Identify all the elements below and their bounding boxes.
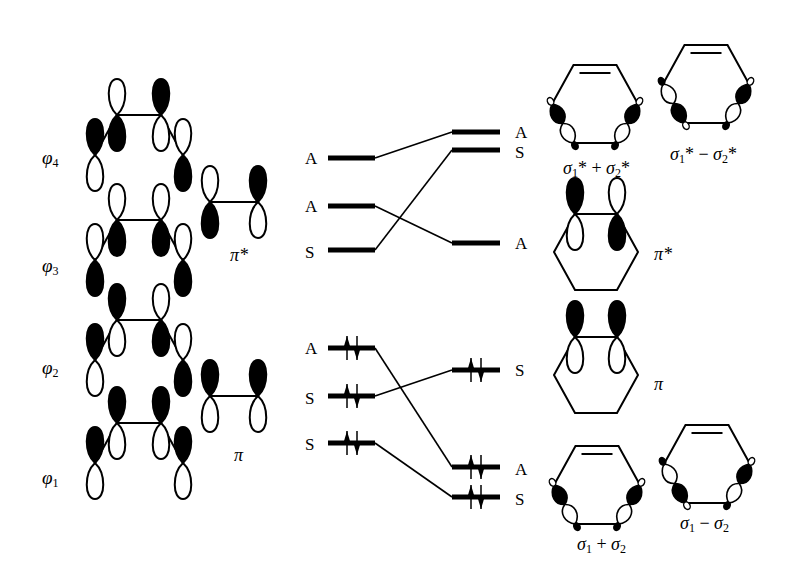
phi1-label: φ1 bbox=[42, 468, 59, 489]
right-energy-level bbox=[452, 485, 500, 509]
pi-star-label: π* bbox=[230, 246, 248, 264]
correlation-line bbox=[375, 132, 452, 158]
pi-ring bbox=[554, 301, 638, 413]
sigma-lobe-icon bbox=[543, 95, 583, 153]
left-energy-level bbox=[328, 204, 375, 209]
correlation-diagram bbox=[0, 0, 791, 578]
right-sym-label: S bbox=[515, 144, 524, 161]
sigma-star-minus-label: σ1* − σ2* bbox=[670, 145, 737, 165]
left-sym-label: S bbox=[305, 436, 314, 453]
sigma-lobe-icon bbox=[718, 75, 758, 133]
p-lobe-icon bbox=[175, 119, 192, 191]
pi-star-ring bbox=[554, 178, 638, 290]
correlation-line bbox=[375, 370, 452, 396]
correlation-line bbox=[375, 150, 452, 250]
left-energy-level bbox=[328, 384, 375, 408]
p-lobe-icon bbox=[87, 119, 104, 191]
left-sym-label: A bbox=[305, 150, 317, 167]
phi2-orbital bbox=[87, 284, 192, 396]
sigma-lobe-icon bbox=[719, 455, 759, 513]
sigma-plus-label: σ1 + σ2 bbox=[577, 535, 626, 555]
right-energy-level bbox=[452, 130, 500, 135]
sigma-lobe-icon bbox=[545, 476, 585, 534]
phi3-orbital bbox=[87, 184, 192, 296]
right-energy-level bbox=[452, 455, 500, 479]
ethylene-pi-orbital bbox=[202, 360, 267, 432]
right-energy-level bbox=[452, 358, 500, 382]
right-energy-level bbox=[452, 241, 500, 246]
correlation-line bbox=[375, 348, 452, 467]
sigma-star-plus-ring bbox=[543, 65, 648, 152]
correlation-line bbox=[375, 206, 452, 243]
sigma-star-plus-label: σ1* + σ2* bbox=[563, 159, 630, 179]
sigma-lobe-icon bbox=[607, 95, 647, 153]
p-lobe-icon bbox=[87, 224, 104, 296]
left-energy-level bbox=[328, 336, 375, 360]
energy-levels bbox=[328, 130, 500, 510]
left-sym-label: A bbox=[305, 340, 317, 357]
right-sym-label: S bbox=[515, 362, 524, 379]
ring-pi-label: π bbox=[654, 375, 663, 393]
p-lobe-icon bbox=[175, 224, 192, 296]
sigma-plus-ring bbox=[545, 446, 650, 533]
right-sym-label: A bbox=[515, 235, 527, 252]
pi-label: π bbox=[234, 446, 243, 464]
right-energy-level bbox=[452, 148, 500, 153]
p-lobe-icon bbox=[87, 427, 104, 499]
phi2-label: φ2 bbox=[42, 358, 59, 379]
phi3-label: φ3 bbox=[42, 256, 59, 277]
left-sym-label: S bbox=[305, 390, 314, 407]
phi1-orbital bbox=[87, 387, 192, 499]
right-sym-label: A bbox=[515, 124, 527, 141]
sigma-lobe-icon bbox=[609, 476, 649, 534]
correlation-line bbox=[375, 443, 452, 497]
right-sym-label: A bbox=[515, 461, 527, 478]
phi4-orbital bbox=[87, 79, 192, 191]
ethylene-pi-star-orbital bbox=[202, 166, 267, 238]
left-sym-label: A bbox=[305, 198, 317, 215]
ethylene-orbitals bbox=[202, 166, 267, 432]
p-lobe-icon bbox=[175, 324, 192, 396]
diene-orbitals bbox=[87, 79, 192, 499]
right-sym-label: S bbox=[515, 491, 524, 508]
left-energy-level bbox=[328, 431, 375, 455]
sigma-star-minus-ring bbox=[654, 45, 759, 132]
left-energy-level bbox=[328, 156, 375, 161]
p-lobe-icon bbox=[175, 427, 192, 499]
sigma-minus-label: σ1 − σ2 bbox=[680, 514, 729, 534]
sigma-lobe-icon bbox=[654, 75, 694, 133]
ring-pi-star-label: π* bbox=[654, 245, 672, 263]
left-sym-label: S bbox=[305, 244, 314, 261]
left-energy-level bbox=[328, 248, 375, 253]
cyclohexene-orbitals bbox=[543, 45, 760, 533]
p-lobe-icon bbox=[87, 324, 104, 396]
phi4-label: φ4 bbox=[42, 148, 59, 169]
sigma-lobe-icon bbox=[655, 455, 695, 513]
sigma-minus-ring bbox=[655, 425, 760, 512]
